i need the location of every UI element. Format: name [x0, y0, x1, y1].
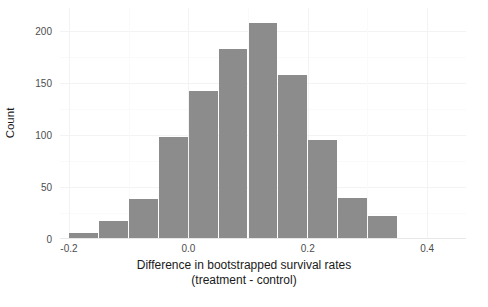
x-axis-tick-label: -0.2 — [60, 243, 77, 254]
histogram-bar — [308, 140, 337, 239]
x-axis-title: Difference in bootstrapped survival rate… — [0, 258, 488, 288]
plot-panel — [60, 8, 466, 239]
y-axis-tick-label: 0 — [46, 234, 52, 245]
x-axis-tick-label: 0.0 — [181, 243, 195, 254]
histogram-bar — [338, 198, 367, 239]
histogram-figure: Count 050100150200 -0.20.00.20.4 Differe… — [0, 0, 488, 307]
x-axis-title-line2: (treatment - control) — [0, 273, 488, 288]
histogram-bars — [60, 8, 466, 239]
histogram-bar — [129, 199, 158, 239]
y-axis-tick-label: 100 — [35, 129, 52, 140]
histogram-bar — [189, 91, 218, 239]
axis-baseline — [60, 238, 466, 239]
y-axis-tick-label: 200 — [35, 25, 52, 36]
x-axis-tick-label: 0.2 — [301, 243, 315, 254]
y-axis-tick-label: 50 — [41, 181, 52, 192]
x-axis-title-line1: Difference in bootstrapped survival rate… — [137, 258, 352, 272]
y-axis-title-text: Count — [4, 107, 16, 138]
histogram-bar — [219, 49, 248, 239]
y-axis-title: Count — [0, 0, 20, 245]
y-axis-tick-label: 150 — [35, 77, 52, 88]
histogram-bar — [249, 23, 278, 239]
histogram-bar — [159, 137, 188, 239]
histogram-bar — [368, 216, 397, 239]
x-axis-tick-label: 0.4 — [420, 243, 434, 254]
histogram-bar — [99, 221, 128, 239]
histogram-bar — [278, 75, 307, 239]
x-axis-tick-labels: -0.20.00.20.4 — [60, 243, 466, 259]
